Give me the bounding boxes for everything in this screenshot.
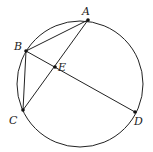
point-C xyxy=(21,108,25,112)
label-C: C xyxy=(9,114,18,127)
point-E xyxy=(53,65,57,69)
segment-BD xyxy=(26,51,135,112)
label-D: D xyxy=(133,115,143,128)
label-B: B xyxy=(13,40,22,53)
segment-AC xyxy=(23,20,88,110)
segment-AB xyxy=(26,20,88,51)
segment-BC xyxy=(23,51,26,110)
point-A xyxy=(86,18,90,22)
point-B xyxy=(24,49,28,53)
point-labels: ABCDE xyxy=(9,5,143,128)
circle xyxy=(17,21,143,147)
label-A: A xyxy=(81,5,90,18)
label-E: E xyxy=(57,61,66,74)
point-D xyxy=(133,110,137,114)
circle-diagram: ABCDE xyxy=(0,0,153,152)
